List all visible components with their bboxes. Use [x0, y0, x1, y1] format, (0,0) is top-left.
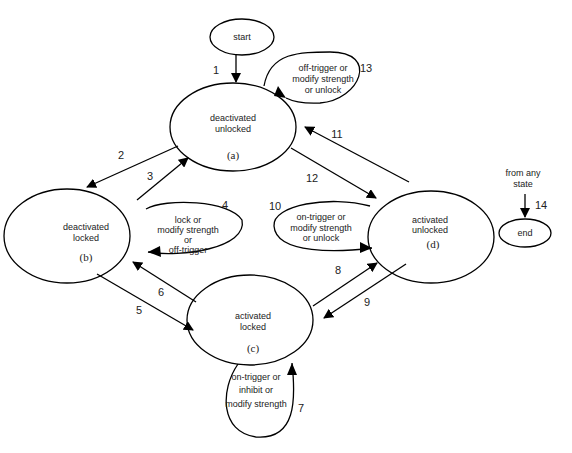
- edge-11: [305, 127, 409, 182]
- node-c-line1: activated: [235, 311, 271, 322]
- node-d: [368, 191, 494, 283]
- edge-number-6: 6: [158, 286, 164, 298]
- node-c-line2: locked: [240, 322, 266, 333]
- loop4-line4: off-trigger: [169, 245, 207, 256]
- loop13-line1: off-trigger or: [299, 63, 348, 74]
- node-d-tag: (d): [427, 238, 440, 250]
- edge-number-7: 7: [298, 402, 304, 414]
- edge-2: [87, 146, 178, 187]
- edge-number-2: 2: [118, 149, 124, 161]
- edge-6: [133, 262, 196, 302]
- loop10-line1: on-trigger or: [296, 212, 345, 223]
- loop10-line3: or unlock: [303, 233, 340, 244]
- edge-number-12: 12: [306, 172, 318, 184]
- loop7-line1: on-trigger or: [231, 372, 280, 383]
- node-start-label: start: [233, 32, 251, 43]
- edge-number-5: 5: [136, 304, 142, 316]
- node-a-line2: unlocked: [215, 124, 251, 135]
- edge-number-9: 9: [364, 296, 370, 308]
- node-end-label: end: [517, 228, 532, 239]
- edge-number-4: 4: [222, 199, 228, 211]
- edge-12: [291, 148, 376, 198]
- edge-number-8: 8: [335, 264, 341, 276]
- edge-number-10: 10: [269, 200, 281, 212]
- node-d-line2: unlocked: [412, 225, 448, 236]
- edge-number-13: 13: [360, 62, 372, 74]
- loop7-line2: inhibit or: [239, 385, 273, 396]
- edge-number-11: 11: [331, 128, 342, 140]
- edge-number-14: 14: [535, 199, 547, 211]
- loop13-line2: modify strength: [292, 74, 354, 85]
- node-a-line1: deactivated: [210, 113, 256, 124]
- edge-5: [97, 274, 193, 330]
- loop7-line3: modify strength: [225, 399, 287, 410]
- edge-number-3: 3: [147, 170, 153, 182]
- node-c-tag: (c): [247, 342, 259, 354]
- end-note-line1: from any: [505, 168, 540, 179]
- node-b-tag: (b): [80, 251, 93, 263]
- node-b: [4, 189, 130, 283]
- node-b-line2: locked: [73, 233, 99, 244]
- edge-3: [137, 158, 188, 200]
- loop13-line3: or unlock: [305, 85, 342, 96]
- end-note-line2: state: [513, 179, 533, 190]
- edge-number-1: 1: [213, 64, 219, 76]
- node-a-tag: (a): [227, 149, 239, 161]
- node-b-line1: deactivated: [63, 222, 109, 233]
